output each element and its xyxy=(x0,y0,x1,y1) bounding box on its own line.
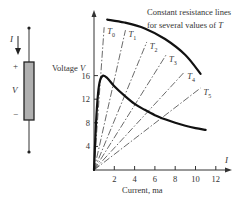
resistance-line-label: T1 xyxy=(128,29,136,41)
current-arrow-icon xyxy=(15,48,21,55)
resistance-line-label: T0 xyxy=(107,26,115,38)
component-schematic: I + V − xyxy=(9,26,34,153)
annotation-line2-var: T xyxy=(218,20,224,30)
x-tick-label: 2 xyxy=(112,174,116,184)
resistance-line-T3 xyxy=(94,55,166,170)
x-ticks: 24681012 xyxy=(112,166,220,184)
annotation-line1: Constant resistance lines xyxy=(147,7,231,17)
vi-characteristic-curve xyxy=(94,76,206,170)
resistance-line-label: T4 xyxy=(187,71,195,83)
resistance-line-label: T5 xyxy=(204,87,212,99)
y-axis-label: Voltage V xyxy=(52,63,87,73)
minus-label: − xyxy=(13,109,18,119)
y-tick-label: 4 xyxy=(86,141,91,151)
x-tick-label: 10 xyxy=(191,174,200,184)
resistance-lines: T0T1T2T3T4T5 xyxy=(94,26,211,170)
y-axis-label-text: Voltage xyxy=(52,63,78,73)
terminal-bottom xyxy=(27,150,30,153)
plus-label: + xyxy=(13,61,18,71)
x-axis-symbol: I xyxy=(224,155,229,165)
y-axis-arrow-icon xyxy=(92,10,97,17)
figure: I + V − 24681012 481216 I Current, ma Vo… xyxy=(0,0,245,204)
voltage-label: V xyxy=(12,85,19,95)
x-tick-label: 4 xyxy=(132,174,137,184)
component-body xyxy=(24,62,34,120)
resistance-line-label: T3 xyxy=(169,54,177,66)
x-tick-label: 6 xyxy=(153,174,157,184)
x-tick-label: 12 xyxy=(212,174,221,184)
x-axis-arrow-icon xyxy=(225,168,232,173)
y-tick-label: 12 xyxy=(82,94,91,104)
annotation-line2-prefix: for several values of xyxy=(147,20,218,30)
y-tick-label: 8 xyxy=(86,118,90,128)
terminal-top xyxy=(27,26,30,29)
x-axis-label: Current, ma xyxy=(122,185,163,195)
x-tick-label: 8 xyxy=(173,174,177,184)
annotation-line2: for several values of T xyxy=(147,20,224,30)
current-label: I xyxy=(9,34,14,44)
resistance-line-T1 xyxy=(94,30,125,170)
resistance-line-label: T2 xyxy=(150,41,158,53)
